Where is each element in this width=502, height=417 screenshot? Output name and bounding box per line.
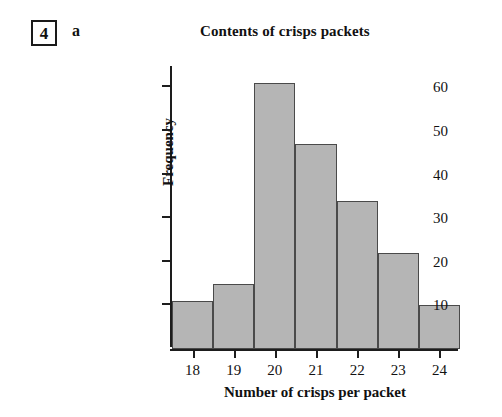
histogram-plot: Frequency Number of crisps per packet 10… bbox=[170, 66, 460, 351]
x-axis-tick-label: 23 bbox=[391, 362, 406, 379]
question-number-box: 4 bbox=[31, 20, 57, 46]
x-axis-tick bbox=[234, 351, 236, 358]
y-axis-tick bbox=[162, 173, 170, 175]
x-axis-tick bbox=[193, 351, 195, 358]
histogram-bar bbox=[295, 144, 336, 349]
y-axis-tick bbox=[162, 85, 170, 87]
y-axis-tick-label: 60 bbox=[433, 79, 448, 96]
x-axis-tick bbox=[275, 351, 277, 358]
worksheet-page: 4 a Contents of crisps packets Frequency… bbox=[0, 0, 502, 417]
x-axis-tick-label: 18 bbox=[185, 362, 200, 379]
x-axis-tick-label: 22 bbox=[350, 362, 365, 379]
x-axis-title: Number of crisps per packet bbox=[170, 384, 460, 401]
y-axis-tick-label: 30 bbox=[433, 210, 448, 227]
histogram-bar bbox=[172, 301, 213, 349]
x-axis-tick-label: 24 bbox=[432, 362, 447, 379]
y-axis-tick bbox=[162, 260, 170, 262]
histogram-bar bbox=[378, 253, 419, 349]
x-axis-tick bbox=[439, 351, 441, 358]
chart-title: Contents of crisps packets bbox=[200, 23, 370, 40]
x-axis-tick bbox=[398, 351, 400, 358]
y-axis-tick-label: 40 bbox=[433, 166, 448, 183]
y-axis-tick-label: 10 bbox=[433, 297, 448, 314]
x-axis-tick-label: 21 bbox=[309, 362, 324, 379]
question-part-label: a bbox=[72, 22, 80, 40]
x-axis-tick bbox=[316, 351, 318, 358]
y-axis-tick bbox=[162, 216, 170, 218]
x-axis-tick-label: 19 bbox=[226, 362, 241, 379]
x-axis-tick bbox=[357, 351, 359, 358]
x-axis-tick-label: 20 bbox=[267, 362, 282, 379]
y-axis-tick bbox=[162, 303, 170, 305]
y-axis-tick-label: 50 bbox=[433, 123, 448, 140]
x-axis-line bbox=[170, 349, 458, 351]
y-axis-tick-label: 20 bbox=[433, 253, 448, 270]
histogram-bar bbox=[254, 83, 295, 349]
y-axis-tick bbox=[162, 129, 170, 131]
histogram-bar bbox=[337, 201, 378, 349]
histogram-bar bbox=[213, 284, 254, 349]
